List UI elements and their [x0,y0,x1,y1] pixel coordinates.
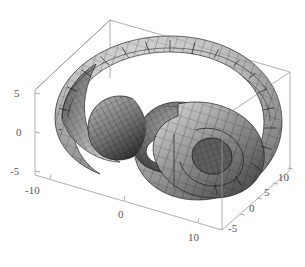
z-tick-label-neg5: -5 [10,165,20,177]
bounding-box-front: 5 0 -5 -10 0 10 10 5 0 -5 [0,0,305,267]
axis-line-x [35,175,222,230]
x-tick-marks [50,174,199,223]
x-tick-label-neg10: -10 [25,184,40,196]
y-tick-label-5: 5 [264,186,270,198]
y-tick-label-neg5: -5 [228,222,238,234]
z-tick-marks [35,93,40,172]
box-edge-left-rise [35,20,110,90]
x-tick-label-10: 10 [188,231,200,243]
z-tick-label-0: 0 [16,126,22,138]
plot-figure: 5 0 -5 -10 0 10 10 5 0 -5 [0,0,305,267]
y-tick-label-10: 10 [278,171,290,183]
y-tick-label-0: 0 [249,202,255,214]
x-tick-label-0: 0 [118,208,124,220]
z-tick-label-5: 5 [14,87,20,99]
